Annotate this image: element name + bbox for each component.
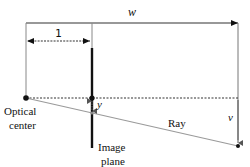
image-plane-label-line1: Image bbox=[98, 141, 126, 153]
image-coord-label: y bbox=[96, 98, 102, 110]
pinhole-diagram: w 1 y v Optical center Image plane Ray bbox=[0, 0, 250, 167]
ray-label: Ray bbox=[168, 117, 186, 129]
world-point bbox=[236, 144, 240, 148]
image-point bbox=[90, 111, 93, 114]
optical-center-label-line2: center bbox=[9, 119, 36, 131]
image-plane-label-line2: plane bbox=[101, 155, 125, 167]
image-plane-axis-point bbox=[89, 95, 94, 100]
ray-line bbox=[26, 98, 238, 146]
world-coord-label: v bbox=[228, 111, 233, 123]
optical-center-point bbox=[23, 95, 29, 101]
unit-distance-label: 1 bbox=[55, 27, 62, 40]
optical-center-label-line1: Optical bbox=[4, 105, 36, 117]
width-label: w bbox=[128, 5, 136, 19]
